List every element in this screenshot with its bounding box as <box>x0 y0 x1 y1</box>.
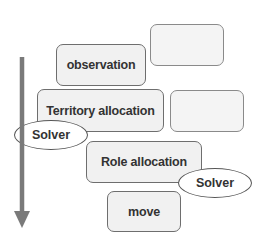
down-arrow-icon <box>0 0 272 246</box>
